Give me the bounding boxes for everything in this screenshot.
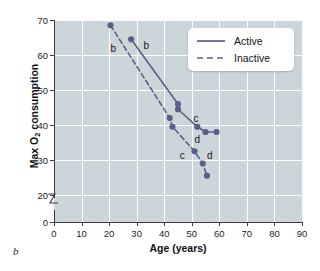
x-tick-label: 10 xyxy=(76,228,87,239)
x-tick xyxy=(137,222,138,226)
y-tick xyxy=(50,55,54,56)
x-tick-label: 60 xyxy=(214,228,225,239)
point-label-c: c xyxy=(193,113,198,124)
y-axis-title-main: Max O xyxy=(28,137,40,169)
x-tick-label: 20 xyxy=(104,228,115,239)
legend-line-solid-icon xyxy=(196,36,226,46)
legend-line-dashed-icon xyxy=(196,53,226,63)
y-axis-title: Max O2 consumption xyxy=(28,16,40,216)
figure-panel-b: 01020304050607080900203040506070 bbccdd … xyxy=(0,0,320,271)
x-tick-label: 50 xyxy=(186,228,197,239)
y-axis-line-upper xyxy=(54,20,55,198)
x-tick xyxy=(109,222,110,226)
legend-entry-inactive: Inactive xyxy=(188,49,294,66)
x-tick xyxy=(164,222,165,226)
x-tick-label: 70 xyxy=(242,228,253,239)
x-tick xyxy=(192,222,193,226)
gridline-horizontal xyxy=(54,160,302,161)
gridline-vertical xyxy=(137,20,138,222)
x-tick xyxy=(219,222,220,226)
y-tick xyxy=(50,222,54,223)
y-tick-label: 0 xyxy=(43,217,48,228)
x-axis-title: Age (years) xyxy=(54,242,302,254)
x-tick-label: 0 xyxy=(51,228,56,239)
gridline-vertical xyxy=(82,20,83,222)
y-tick xyxy=(50,125,54,126)
y-axis-title-tail: consumption xyxy=(28,64,40,133)
gridline-horizontal xyxy=(54,125,302,126)
x-tick-label: 90 xyxy=(297,228,308,239)
point-label-b: b xyxy=(144,39,150,50)
gridline-horizontal xyxy=(54,90,302,91)
point-label-d: d xyxy=(195,134,201,145)
y-tick xyxy=(50,160,54,161)
point-label-b: b xyxy=(110,43,116,54)
x-tick xyxy=(54,222,55,226)
legend-label-active: Active xyxy=(234,35,263,47)
x-tick-label: 30 xyxy=(131,228,142,239)
x-tick xyxy=(302,222,303,226)
x-tick xyxy=(274,222,275,226)
point-label-c: c xyxy=(180,149,185,160)
y-tick xyxy=(50,195,54,196)
y-axis-title-subscript: 2 xyxy=(33,133,42,137)
y-tick xyxy=(50,90,54,91)
gridline-horizontal xyxy=(54,20,302,21)
x-tick xyxy=(247,222,248,226)
point-label-d: d xyxy=(207,149,213,160)
gridline-vertical xyxy=(164,20,165,222)
legend-label-inactive: Inactive xyxy=(234,52,270,64)
panel-letter: b xyxy=(13,245,19,257)
legend-entry-active: Active xyxy=(188,32,294,49)
x-tick-label: 40 xyxy=(159,228,170,239)
x-axis-line xyxy=(54,222,303,223)
x-tick-label: 80 xyxy=(269,228,280,239)
y-tick xyxy=(50,20,54,21)
legend: Active Inactive xyxy=(188,28,294,71)
x-tick xyxy=(82,222,83,226)
gridline-horizontal xyxy=(54,195,302,196)
